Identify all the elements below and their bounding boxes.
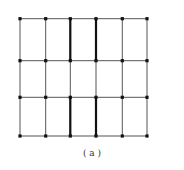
joint-node xyxy=(94,17,97,20)
joint-node xyxy=(69,59,72,62)
joint-node xyxy=(44,17,47,20)
joint-node xyxy=(121,134,124,137)
joint-node xyxy=(94,134,97,137)
joint-node xyxy=(145,134,148,137)
joint-node xyxy=(94,59,97,62)
joint-node xyxy=(69,17,72,20)
joint-node xyxy=(121,17,124,20)
grid-frame-diagram xyxy=(0,0,184,170)
joint-node xyxy=(69,96,72,99)
joint-node xyxy=(69,134,72,137)
joint-node xyxy=(145,96,148,99)
joint-node xyxy=(145,17,148,20)
joint-node xyxy=(44,59,47,62)
joint-node xyxy=(18,134,21,137)
joint-node xyxy=(44,134,47,137)
bold-members xyxy=(70,19,96,136)
joint-node xyxy=(121,96,124,99)
joint-node xyxy=(18,96,21,99)
figure-caption: ( a ) xyxy=(0,148,184,158)
joint-node xyxy=(145,59,148,62)
joint-node xyxy=(121,59,124,62)
joint-node xyxy=(44,96,47,99)
joint-node xyxy=(18,17,21,20)
joint-node xyxy=(18,59,21,62)
grid-lines xyxy=(20,19,147,136)
grid-nodes xyxy=(18,17,148,137)
joint-node xyxy=(94,96,97,99)
